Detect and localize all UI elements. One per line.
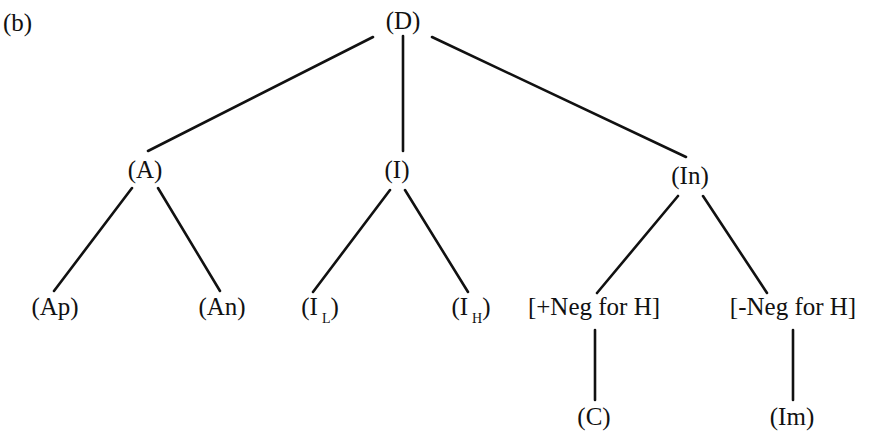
node-label: (Ap) — [31, 293, 78, 320]
node-label: (I — [451, 293, 468, 320]
node-label: (D) — [386, 7, 421, 34]
node-posneg: [+Neg for H] — [528, 294, 660, 319]
node-label: (Im) — [770, 403, 814, 430]
edge-in-negneg — [703, 196, 767, 293]
node-in: (In) — [671, 163, 708, 188]
edge-a-an — [158, 188, 220, 291]
node-an: (An) — [198, 294, 245, 319]
tree-edges — [0, 0, 883, 440]
edge-i-il — [313, 190, 390, 292]
edge-in-posneg — [597, 196, 678, 293]
node-label: (An) — [198, 293, 245, 320]
node-label: (I) — [385, 156, 410, 183]
node-label: (In) — [671, 162, 708, 189]
node-label-suffix: ) — [330, 293, 338, 320]
tree-diagram: (b) (D)(A)(I)(In)(Ap)(An)(IL)(IH)[+Neg f… — [0, 0, 883, 440]
node-d: (D) — [386, 8, 421, 33]
edge-i-ih — [405, 190, 468, 292]
node-c: (C) — [577, 404, 610, 429]
node-subscript: L — [322, 311, 331, 326]
node-subscript: H — [472, 311, 482, 326]
node-il: (IL) — [301, 294, 339, 326]
node-label: (I — [301, 293, 318, 320]
node-i: (I) — [385, 157, 410, 182]
edge-a-ap — [54, 188, 132, 291]
node-negneg: [-Neg for H] — [730, 294, 856, 319]
node-label: [+Neg for H] — [528, 293, 660, 320]
node-label: (A) — [128, 156, 163, 183]
edge-d-a — [148, 37, 373, 151]
node-im: (Im) — [770, 404, 814, 429]
node-a: (A) — [128, 157, 163, 182]
node-label: (C) — [577, 403, 610, 430]
node-ap: (Ap) — [31, 294, 78, 319]
edge-d-in — [432, 37, 686, 157]
node-label-suffix: ) — [482, 293, 490, 320]
node-ih: (IH) — [451, 294, 490, 326]
node-label: [-Neg for H] — [730, 293, 856, 320]
